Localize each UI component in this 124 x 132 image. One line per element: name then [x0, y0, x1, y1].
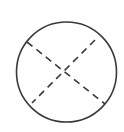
dashed-diagonal-1: [27, 42, 105, 104]
circle-cross-diagram: [0, 0, 124, 132]
outer-circle: [17, 22, 117, 122]
dashed-diagonal-2: [32, 40, 95, 103]
